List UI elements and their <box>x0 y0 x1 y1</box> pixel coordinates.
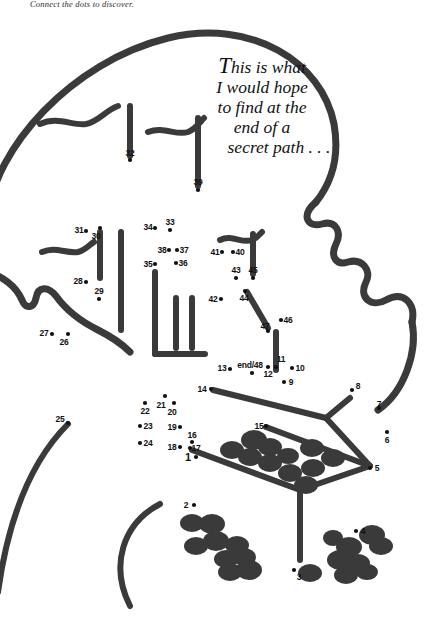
dot-label-38: 38 <box>157 245 166 255</box>
dot-label-13: 13 <box>217 363 226 373</box>
dot-marker[interactable] <box>84 280 88 284</box>
dot-label-42: 42 <box>208 294 217 304</box>
dot-label-14: 14 <box>197 384 206 394</box>
dot-label-46: 46 <box>283 315 292 325</box>
berries-spilled-left <box>180 514 262 581</box>
dot-marker[interactable] <box>172 401 176 405</box>
dot-marker[interactable] <box>66 332 70 336</box>
dot-label-5: 5 <box>375 463 380 473</box>
dot-marker[interactable] <box>251 276 255 280</box>
dot-label-16: 16 <box>187 430 196 440</box>
dot-label-8: 8 <box>356 381 361 391</box>
dot-marker[interactable] <box>209 387 213 391</box>
dot-label-25: 25 <box>55 414 64 424</box>
dot-marker[interactable] <box>385 430 389 434</box>
dot-label-43: 43 <box>231 265 240 275</box>
quote-line-3: to find at the <box>178 97 346 117</box>
dot-marker[interactable] <box>168 228 172 232</box>
dot-marker[interactable] <box>192 503 196 507</box>
quote-line-1: This is what <box>178 56 346 77</box>
dot-label-32: 32 <box>125 148 134 158</box>
dot-marker[interactable] <box>167 248 171 252</box>
dot-marker[interactable] <box>66 421 70 425</box>
dot-marker[interactable] <box>128 158 132 162</box>
dot-label-47: 47 <box>260 321 269 331</box>
berries-spilled-right <box>298 525 393 584</box>
dot-marker[interactable] <box>354 529 358 533</box>
dot-label-9: 9 <box>289 377 294 387</box>
dot-label-35: 35 <box>143 259 152 269</box>
dot-label-40: 40 <box>235 247 244 257</box>
dot-label-45: 45 <box>248 265 257 275</box>
dot-label-17: 17 <box>191 443 200 453</box>
quote-line-5: secret path . . . <box>178 137 346 157</box>
dot-label-12: 12 <box>263 369 272 379</box>
dot-label-24: 24 <box>143 438 152 448</box>
dot-label-23: 23 <box>143 421 152 431</box>
dot-label-36: 36 <box>178 258 187 268</box>
quote-dropcap: T <box>218 53 231 78</box>
dot-marker[interactable] <box>234 276 238 280</box>
dot-label-27: 27 <box>39 328 48 338</box>
quote-line-2: I would hope <box>178 77 346 97</box>
quote-block: This is what I would hope to find at the… <box>178 56 346 157</box>
dot-marker[interactable] <box>250 371 254 375</box>
dot-label-30: 30 <box>91 231 100 241</box>
dot-label-33: 33 <box>165 217 174 227</box>
dot-marker[interactable] <box>194 455 198 459</box>
dot-marker[interactable] <box>178 425 182 429</box>
dot-label-28: 28 <box>73 276 82 286</box>
dot-marker[interactable] <box>219 297 223 301</box>
dot-marker[interactable] <box>279 318 283 322</box>
dot-marker[interactable] <box>174 261 178 265</box>
dot-marker[interactable] <box>98 226 102 230</box>
dot-label-39: 39 <box>193 177 202 187</box>
dot-marker[interactable] <box>282 380 286 384</box>
dot-label-18: 18 <box>167 442 176 452</box>
dot-marker[interactable] <box>196 188 200 192</box>
dot-label-20: 20 <box>167 407 176 417</box>
dot-label-10: 10 <box>295 363 304 373</box>
instruction-caption: Connect the dots to discover. <box>30 0 134 9</box>
dot-label-21: 21 <box>156 400 165 410</box>
dot-marker[interactable] <box>153 262 157 266</box>
dot-label-11: 11 <box>277 354 286 364</box>
dot-marker[interactable] <box>350 388 354 392</box>
dot-marker[interactable] <box>290 366 294 370</box>
dot-label-end-48: end/48 <box>237 360 263 370</box>
dot-label-2: 2 <box>184 500 189 510</box>
dot-label-6: 6 <box>385 435 390 445</box>
dot-marker[interactable] <box>220 250 224 254</box>
quote-line-1-rest: his is what <box>231 57 306 77</box>
dot-marker[interactable] <box>175 248 179 252</box>
dot-marker[interactable] <box>97 297 101 301</box>
dot-marker[interactable] <box>264 424 268 428</box>
dot-marker[interactable] <box>50 332 54 336</box>
dot-label-29: 29 <box>94 286 103 296</box>
dot-marker[interactable] <box>84 229 88 233</box>
dot-marker[interactable] <box>163 394 167 398</box>
dot-label-4: 4 <box>361 526 366 536</box>
quote-line-4: end of a <box>178 117 346 137</box>
dot-label-15: 15 <box>254 421 263 431</box>
dot-marker[interactable] <box>138 424 142 428</box>
dot-label-26: 26 <box>59 337 68 347</box>
dot-marker[interactable] <box>231 250 235 254</box>
dot-label-37: 37 <box>179 245 188 255</box>
dot-label-41: 41 <box>210 247 219 257</box>
neck-and-shoulder-curves <box>0 424 160 606</box>
puzzle-page: Connect the dots to discover. This is wh… <box>0 0 426 624</box>
dot-marker[interactable] <box>274 365 278 369</box>
dot-marker[interactable] <box>153 226 157 230</box>
dot-label-22: 22 <box>140 406 149 416</box>
dot-marker[interactable] <box>292 568 296 572</box>
dot-label-19: 19 <box>167 422 176 432</box>
dot-marker[interactable] <box>138 441 142 445</box>
dot-label-31: 31 <box>74 225 83 235</box>
dot-marker[interactable] <box>143 401 147 405</box>
dot-marker[interactable] <box>368 466 372 470</box>
dot-label-7: 7 <box>377 399 382 409</box>
dot-label-3: 3 <box>297 572 302 582</box>
dot-marker[interactable] <box>178 445 182 449</box>
dot-marker[interactable] <box>228 367 232 371</box>
